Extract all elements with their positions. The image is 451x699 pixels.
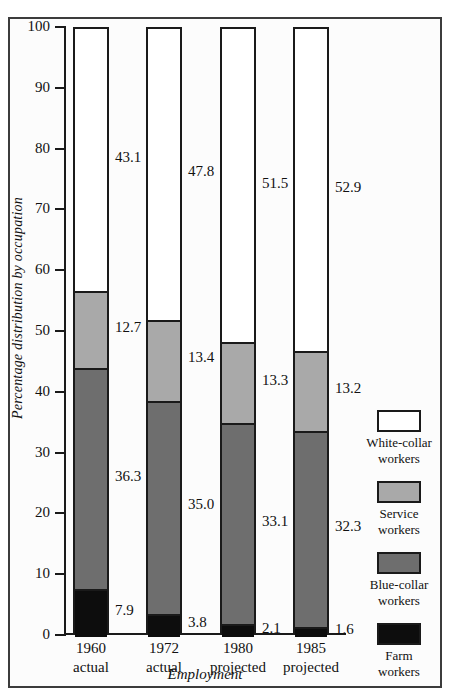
y-axis-tick bbox=[55, 208, 66, 210]
y-axis-tick bbox=[55, 330, 66, 332]
y-axis-tick bbox=[55, 634, 66, 636]
bar-segment bbox=[295, 627, 327, 637]
bar-segment bbox=[295, 431, 327, 627]
bar-segment bbox=[295, 29, 327, 351]
y-axis-tick-label-text: 80 bbox=[8, 141, 50, 156]
stacked-bar bbox=[293, 27, 329, 635]
scan-artifact-text bbox=[0, 0, 451, 16]
bar-segment bbox=[75, 368, 107, 589]
y-axis-tick-label: 90 bbox=[0, 80, 50, 95]
y-axis-tick-label: 100 bbox=[0, 19, 50, 34]
legend-label: Service bbox=[356, 506, 442, 522]
stacked-bar bbox=[220, 27, 256, 635]
bar-value-label: 13.3 bbox=[262, 373, 288, 388]
y-axis-tick-label-text: 90 bbox=[8, 80, 50, 95]
bar-value-label: 13.2 bbox=[335, 381, 361, 396]
legend-item: Blue-collarworkers bbox=[356, 552, 442, 609]
legend-label: workers bbox=[356, 664, 442, 680]
y-axis-tick-label-text: 100 bbox=[8, 19, 50, 34]
legend-label: workers bbox=[356, 522, 442, 538]
y-axis-tick bbox=[55, 512, 66, 514]
y-axis-tick bbox=[55, 148, 66, 150]
bar-value-label: 3.8 bbox=[188, 615, 207, 630]
legend-label: White-collar bbox=[356, 435, 442, 451]
legend-item: Farmworkers bbox=[356, 623, 442, 680]
bar-segment bbox=[75, 589, 107, 637]
y-axis-tick-label: 10 bbox=[0, 566, 50, 581]
bar-value-label: 1.6 bbox=[335, 622, 354, 637]
legend-label: Blue-collar bbox=[356, 577, 442, 593]
y-axis-tick-label: 80 bbox=[0, 141, 50, 156]
y-axis-tick-label: 20 bbox=[0, 505, 50, 520]
bar-segment bbox=[75, 291, 107, 368]
bar-value-label: 33.1 bbox=[262, 514, 288, 529]
stacked-bar bbox=[73, 27, 109, 635]
x-axis-title: Employment bbox=[64, 666, 346, 683]
legend-label: Farm bbox=[356, 648, 442, 664]
legend-swatch bbox=[377, 552, 421, 574]
y-axis-tick-label-text: 20 bbox=[8, 505, 50, 520]
bar-segment bbox=[222, 423, 254, 624]
bar-segment bbox=[148, 614, 180, 637]
bar-value-label: 47.8 bbox=[188, 164, 214, 179]
bar-segment bbox=[295, 351, 327, 431]
legend-swatch bbox=[377, 410, 421, 432]
chart-legend: White-collarworkersServiceworkersBlue-co… bbox=[356, 410, 442, 694]
bar-value-label: 52.9 bbox=[335, 180, 361, 195]
y-axis-tick bbox=[55, 452, 66, 454]
y-axis-tick-label: 30 bbox=[0, 445, 50, 460]
y-axis-title: Percentage distribution by occupation bbox=[10, 178, 26, 438]
bar-value-label: 36.3 bbox=[115, 469, 141, 484]
y-axis-tick-label-text: 10 bbox=[8, 566, 50, 581]
bar-segment bbox=[222, 342, 254, 423]
x-axis-category-line: 1985 bbox=[263, 639, 359, 658]
legend-label: workers bbox=[356, 593, 442, 609]
y-axis-tick bbox=[55, 87, 66, 89]
bar-value-label: 13.4 bbox=[188, 350, 214, 365]
bar-value-label: 12.7 bbox=[115, 320, 141, 335]
bar-value-label: 2.1 bbox=[262, 621, 281, 636]
legend-label: workers bbox=[356, 451, 442, 467]
bar-value-label: 35.0 bbox=[188, 497, 214, 512]
stacked-bar bbox=[146, 27, 182, 635]
bar-segment bbox=[75, 29, 107, 291]
y-axis-tick-label-text: 30 bbox=[8, 445, 50, 460]
y-axis-tick bbox=[55, 573, 66, 575]
bar-segment bbox=[148, 320, 180, 401]
bar-segment bbox=[222, 624, 254, 637]
legend-item: White-collarworkers bbox=[356, 410, 442, 467]
y-axis-tick bbox=[55, 269, 66, 271]
bar-value-label: 7.9 bbox=[115, 603, 134, 618]
y-axis-tick bbox=[55, 391, 66, 393]
bar-segment bbox=[222, 29, 254, 342]
bar-value-label: 51.5 bbox=[262, 176, 288, 191]
bar-segment bbox=[148, 401, 180, 614]
legend-swatch bbox=[377, 481, 421, 503]
legend-swatch bbox=[377, 623, 421, 645]
bar-value-label: 43.1 bbox=[115, 150, 141, 165]
y-axis-tick bbox=[55, 26, 66, 28]
legend-item: Serviceworkers bbox=[356, 481, 442, 538]
bar-segment bbox=[148, 29, 180, 320]
